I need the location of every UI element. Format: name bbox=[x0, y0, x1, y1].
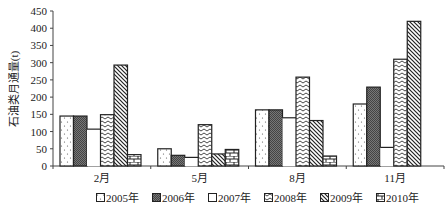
bars bbox=[60, 21, 421, 166]
bar bbox=[353, 104, 367, 166]
bar-chart: 0501001502002503003504004502月5月8月11月 石油类… bbox=[0, 0, 448, 213]
bar bbox=[367, 87, 381, 166]
bar bbox=[310, 121, 324, 166]
legend-item: 2005年 bbox=[96, 189, 139, 205]
bar bbox=[212, 154, 226, 166]
y-tick-label: 450 bbox=[31, 5, 48, 17]
legend-swatch-icon bbox=[264, 193, 273, 202]
bar bbox=[296, 77, 310, 166]
y-tick-label: 200 bbox=[31, 91, 48, 103]
bar bbox=[128, 155, 142, 166]
legend-item: 2006年 bbox=[152, 189, 195, 205]
bar bbox=[60, 116, 74, 166]
legend-item: 2010年 bbox=[376, 189, 419, 205]
legend-item: 2008年 bbox=[264, 189, 307, 205]
y-tick-label: 350 bbox=[31, 39, 48, 51]
legend-swatch-icon bbox=[96, 193, 105, 202]
bar bbox=[198, 125, 212, 166]
legend-label: 2009年 bbox=[330, 189, 363, 205]
y-axis-label: 石油类月通量(t) bbox=[7, 50, 21, 127]
y-tick-label: 0 bbox=[42, 160, 48, 172]
legend-label: 2006年 bbox=[162, 189, 195, 205]
legend-item: 2009年 bbox=[320, 189, 363, 205]
bar bbox=[407, 21, 421, 166]
y-tick-label: 50 bbox=[36, 143, 48, 155]
legend-swatch-icon bbox=[208, 193, 217, 202]
legend-swatch-icon bbox=[152, 193, 161, 202]
y-tick-label: 100 bbox=[31, 126, 48, 138]
bar bbox=[158, 149, 172, 166]
bar bbox=[74, 116, 88, 166]
y-tick-label: 250 bbox=[31, 74, 48, 86]
bar bbox=[101, 115, 115, 166]
bar bbox=[269, 110, 283, 166]
legend-label: 2010年 bbox=[386, 189, 419, 205]
bar bbox=[114, 65, 128, 166]
x-tick-label: 2月 bbox=[94, 172, 111, 184]
legend: 2005年2006年2007年2008年2009年2010年 bbox=[96, 189, 432, 205]
legend-item: 2007年 bbox=[208, 189, 251, 205]
bar bbox=[394, 59, 408, 166]
legend-label: 2007年 bbox=[218, 189, 251, 205]
bar bbox=[256, 110, 270, 166]
y-tick-label: 400 bbox=[31, 22, 48, 34]
legend-swatch-icon bbox=[320, 193, 329, 202]
bar bbox=[171, 155, 185, 166]
legend-label: 2008年 bbox=[274, 189, 307, 205]
y-tick-label: 150 bbox=[31, 108, 48, 120]
bar bbox=[225, 149, 239, 166]
y-tick-label: 300 bbox=[31, 57, 48, 69]
x-tick-label: 8月 bbox=[289, 172, 306, 184]
bar bbox=[323, 156, 337, 166]
legend-swatch-icon bbox=[376, 193, 385, 202]
x-tick-label: 5月 bbox=[191, 172, 208, 184]
legend-label: 2005年 bbox=[106, 189, 139, 205]
x-tick-label: 11月 bbox=[384, 172, 406, 184]
